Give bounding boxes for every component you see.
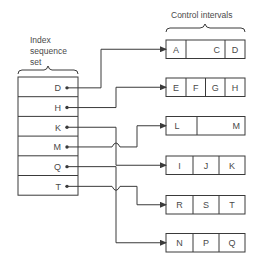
control-interval-row: EFGH	[166, 78, 245, 97]
record-n: N	[176, 238, 183, 248]
record-k: K	[229, 161, 235, 171]
record-p: P	[203, 238, 209, 248]
index-sequence-set: DHKMQT	[18, 77, 78, 195]
record-l: L	[174, 121, 179, 131]
record-m: M	[233, 121, 241, 131]
index-diagram: Index sequence set DHKMQT Control interv…	[0, 0, 263, 263]
index-entry-k: K	[55, 123, 61, 133]
control-interval-row: NPQ	[166, 234, 245, 253]
record-a: A	[173, 45, 179, 55]
index-entry-h: H	[55, 103, 62, 113]
record-g: G	[212, 83, 219, 93]
index-entry-m: M	[54, 142, 62, 152]
index-entry-t: T	[56, 182, 62, 192]
index-entry-d: D	[55, 83, 62, 93]
record-t: T	[229, 200, 235, 210]
pointer-k	[67, 127, 166, 165]
record-q: Q	[228, 238, 235, 248]
record-d: D	[232, 45, 239, 55]
control-intervals: ACDEFGHLMIJKRSTNPQ	[166, 40, 245, 252]
control-intervals-brace	[166, 24, 245, 32]
index-label-line-2: sequence	[30, 46, 67, 56]
control-intervals-label: Control intervals	[171, 10, 232, 20]
record-h: H	[232, 83, 239, 93]
index-label-line-3: set	[30, 57, 42, 67]
pointer-d	[67, 49, 166, 88]
record-s: S	[203, 200, 209, 210]
index-set-brace	[18, 66, 78, 74]
control-interval-row: ACD	[166, 40, 245, 59]
record-j: J	[204, 161, 209, 171]
index-entry-q: Q	[54, 162, 61, 172]
index-set-label: Index sequence set	[30, 35, 67, 67]
control-interval-row: LM	[166, 117, 245, 136]
record-e: E	[173, 83, 179, 93]
control-interval-row: RST	[166, 196, 245, 215]
control-interval-row: IJK	[166, 156, 245, 175]
record-f: F	[193, 83, 199, 93]
record-r: R	[176, 200, 183, 210]
pointer-h	[67, 87, 166, 107]
index-label-line-1: Index	[30, 35, 52, 45]
record-i: I	[178, 161, 181, 171]
record-c: C	[214, 45, 221, 55]
pointers	[67, 49, 166, 243]
